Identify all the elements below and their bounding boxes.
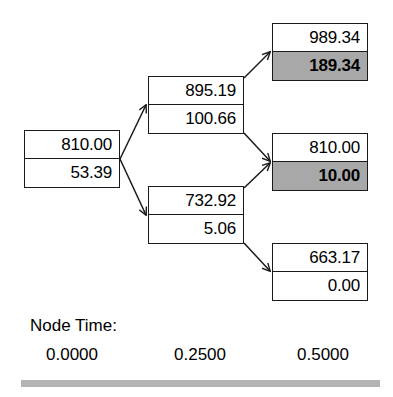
node-root-lower-value: 53.39 [25,159,119,187]
node-up-upper-value: 895.19 [149,77,243,105]
node-up[interactable]: 895.19 100.66 [148,76,244,134]
edge-down-to-updown [244,163,270,188]
node-down[interactable]: 732.92 5.06 [148,186,244,244]
edge-up-to-updown [244,133,270,161]
edge-up-to-upup [244,52,270,78]
node-down-down[interactable]: 663.17 0.00 [272,243,368,301]
node-down-upper-value: 732.92 [149,187,243,215]
edge-down-to-downdown [244,243,270,271]
node-up-down-lower-value: 10.00 [273,162,367,190]
node-root-upper-value: 810.00 [25,131,119,159]
node-time-label: Node Time: [30,316,117,336]
node-down-down-upper-value: 663.17 [273,244,367,272]
node-root[interactable]: 810.00 53.39 [24,130,120,188]
node-down-lower-value: 5.06 [149,215,243,243]
bottom-divider [21,380,380,387]
node-up-up-upper-value: 989.34 [273,24,367,52]
edge-root-to-down [120,159,146,215]
node-up-down-upper-value: 810.00 [273,134,367,162]
node-up-lower-value: 100.66 [149,105,243,133]
time-tick-2: 0.5000 [283,345,363,365]
time-tick-1: 0.2500 [160,345,240,365]
node-up-up-lower-value: 189.34 [273,52,367,80]
node-up-down[interactable]: 810.00 10.00 [272,133,368,191]
node-down-down-lower-value: 0.00 [273,272,367,300]
edge-root-to-up [120,105,146,159]
time-tick-0: 0.0000 [32,345,112,365]
node-up-up[interactable]: 989.34 189.34 [272,23,368,81]
